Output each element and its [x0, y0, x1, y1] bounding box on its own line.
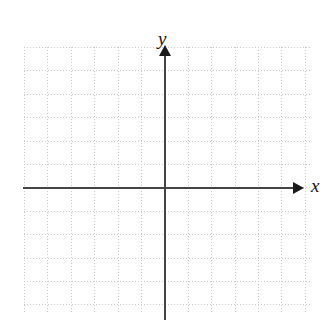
grid-line-horizontal	[24, 94, 310, 95]
grid-line-vertical	[118, 47, 119, 313]
grid-line-horizontal	[24, 211, 310, 212]
grid-line-vertical	[305, 47, 306, 313]
grid-line-horizontal	[24, 164, 310, 165]
x-axis-arrow-icon	[293, 182, 304, 194]
grid-line-horizontal	[24, 70, 310, 71]
grid-line-horizontal	[24, 141, 310, 142]
y-axis-label: y	[158, 29, 166, 48]
grid-line-horizontal	[24, 304, 310, 305]
grid-line-vertical	[188, 47, 189, 313]
coordinate-plane: y x	[0, 0, 333, 333]
grid-line-vertical	[24, 47, 25, 313]
grid-line-vertical	[94, 47, 95, 313]
x-axis-line	[23, 187, 298, 189]
grid-line-vertical	[211, 47, 212, 313]
grid-line-horizontal	[24, 258, 310, 259]
grid-line-vertical	[47, 47, 48, 313]
y-axis-line	[164, 52, 166, 320]
grid-line-vertical	[235, 47, 236, 313]
grid-line-horizontal	[24, 234, 310, 235]
grid-line-vertical	[258, 47, 259, 313]
grid-line-horizontal	[24, 281, 310, 282]
grid-line-vertical	[71, 47, 72, 313]
grid	[24, 47, 310, 313]
x-axis-label: x	[311, 176, 319, 195]
grid-line-vertical	[141, 47, 142, 313]
grid-line-vertical	[281, 47, 282, 313]
grid-line-horizontal	[24, 117, 310, 118]
